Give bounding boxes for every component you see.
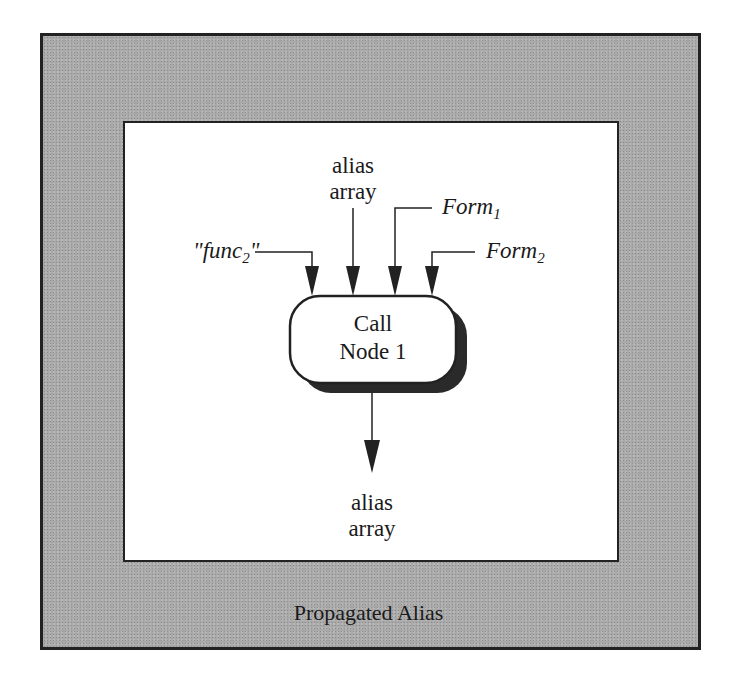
arrowhead-icon: [364, 440, 380, 473]
form1-connector: [395, 208, 432, 275]
array-text: array: [318, 179, 388, 205]
alias-text: alias: [336, 490, 408, 516]
func-connector: [255, 252, 312, 275]
call-text: Call: [290, 310, 456, 338]
call-node-label: Call Node 1: [290, 310, 456, 366]
alias-text: alias: [318, 153, 388, 179]
form2-label: Form2: [486, 238, 545, 271]
arrowhead-icon: [388, 266, 402, 296]
node-text: Node 1: [290, 338, 456, 366]
alias-array-top-label: alias array: [318, 153, 388, 205]
form2-connector: [432, 252, 475, 275]
arrowhead-icon: [305, 266, 319, 296]
form1-label: Form1: [442, 194, 501, 227]
alias-array-output-label: alias array: [336, 490, 408, 542]
func2-label: "func2": [193, 238, 259, 271]
propagated-alias-caption: Propagated Alias: [0, 600, 737, 626]
arrowhead-icon: [425, 266, 439, 296]
arrowhead-icon: [346, 266, 360, 296]
array-text: array: [336, 516, 408, 542]
